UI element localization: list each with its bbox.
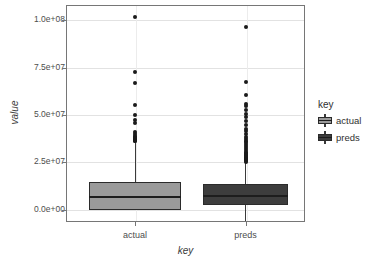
outlier-point: [244, 25, 248, 29]
median-line: [89, 196, 181, 198]
x-axis-title: key: [0, 245, 371, 256]
y-tick-mark: [62, 210, 66, 211]
legend-item-preds[interactable]: preds: [318, 130, 380, 144]
y-tick-label: 0.0e+00: [34, 205, 65, 214]
outlier-point: [244, 119, 248, 123]
y-tick-mark: [62, 20, 66, 21]
legend-key-icon: [318, 131, 332, 144]
outlier-point: [244, 160, 248, 164]
legend-label: preds: [336, 132, 360, 143]
legend-items: actualpreds: [318, 113, 380, 144]
outlier-point: [244, 80, 248, 84]
y-axis-title: value: [9, 83, 20, 143]
y-tick-label: 2.5e+07: [34, 157, 65, 166]
boxplot-actual: [89, 0, 181, 217]
y-tick-label: 7.5e+07: [34, 63, 65, 72]
y-tick-mark: [62, 162, 66, 163]
whisker-upper: [135, 142, 136, 182]
boxplot-figure: value 0.0e+002.5e+075.0e+077.5e+071.0e+0…: [0, 0, 383, 269]
y-tick-label: 1.0e+08: [34, 15, 65, 24]
x-tick-mark: [135, 222, 136, 226]
x-tick-label-preds: preds: [234, 230, 257, 240]
x-tick-mark: [246, 222, 247, 226]
y-tick-mark: [62, 68, 66, 69]
median-line: [203, 195, 288, 197]
outlier-point: [133, 81, 137, 85]
legend: key actualpreds: [318, 99, 380, 147]
legend-title: key: [318, 99, 380, 110]
x-tick-label-actual: actual: [123, 230, 147, 240]
legend-label: actual: [336, 115, 361, 126]
legend-item-actual[interactable]: actual: [318, 113, 380, 127]
whisker-lower: [245, 205, 246, 221]
y-tick-mark: [62, 115, 66, 116]
legend-key-icon: [318, 114, 332, 127]
whisker-upper: [245, 163, 246, 184]
outlier-point: [133, 113, 137, 117]
outlier-point: [244, 93, 248, 97]
y-tick-label: 5.0e+07: [34, 110, 65, 119]
